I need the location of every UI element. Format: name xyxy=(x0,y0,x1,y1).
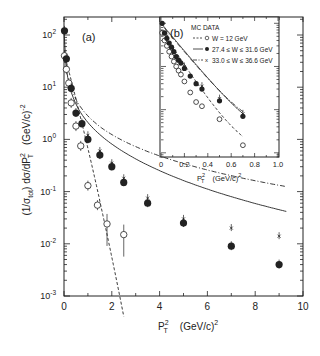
svg-text:0.8: 0.8 xyxy=(249,160,259,169)
inset-x-axis-label: P2T(GeV/c)2 xyxy=(197,172,241,184)
svg-text:P2T(GeV/c)2: P2T(GeV/c)2 xyxy=(197,172,241,184)
svg-text:0.2: 0.2 xyxy=(179,160,189,169)
open-circle-marker-icon xyxy=(205,36,209,40)
svg-text:6: 6 xyxy=(205,301,211,312)
svg-text:0: 0 xyxy=(61,301,67,312)
svg-text:10-2: 10-2 xyxy=(40,237,56,249)
legend-item-w33-36: 33.0 ≤ W ≤ 36.6 GeV xyxy=(212,57,273,64)
figure: 0246810 10210110010-110-210-3 (a) (1/σto… xyxy=(0,0,320,356)
svg-text:8: 8 xyxy=(252,301,258,312)
svg-text:0.6: 0.6 xyxy=(226,160,236,169)
main-x-tick-labels: 0246810 xyxy=(61,301,309,312)
x-axis-label: P2T(GeV/c)2 xyxy=(158,319,218,334)
svg-text:100: 100 xyxy=(42,132,56,144)
legend-item-w12: W = 12 GeV xyxy=(212,35,248,42)
svg-text:P2T(GeV/c)2: P2T(GeV/c)2 xyxy=(158,319,218,334)
cross-marker-icon: x xyxy=(205,57,208,63)
svg-text:0.4: 0.4 xyxy=(203,160,213,169)
svg-text:10-3: 10-3 xyxy=(40,289,56,301)
svg-text:2: 2 xyxy=(109,301,115,312)
main-y-tick-labels: 10210110010-110-210-3 xyxy=(40,28,56,301)
svg-text:1.0: 1.0 xyxy=(273,160,283,169)
legend-item-w27-31: 27.4 ≤ W ≤ 31.6 GeV xyxy=(212,46,273,53)
svg-text:101: 101 xyxy=(42,80,56,92)
panel-b-label: (b) xyxy=(170,27,183,39)
svg-text:10-1: 10-1 xyxy=(40,185,56,197)
filled-circle-marker-icon xyxy=(205,47,209,51)
svg-text:(1/σtot) dσ/dP2T (GeV/c)-2: (1/σtot) dσ/dP2T (GeV/c)-2 xyxy=(19,104,34,215)
svg-text:10: 10 xyxy=(297,301,309,312)
y-axis-label: (1/σtot) dσ/dP2T (GeV/c)-2 xyxy=(19,104,34,215)
panel-a-label: (a) xyxy=(82,31,95,43)
svg-text:102: 102 xyxy=(42,28,56,40)
svg-text:4: 4 xyxy=(157,301,163,312)
inset-title: MC DATA xyxy=(191,24,220,31)
svg-text:0: 0 xyxy=(159,160,163,169)
